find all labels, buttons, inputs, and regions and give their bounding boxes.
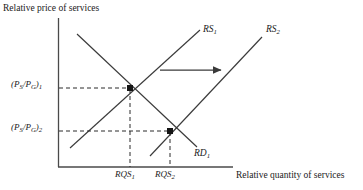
y-tick-1-mid: /P — [23, 79, 31, 89]
y-axis-title: Relative price of services — [3, 3, 99, 13]
x-tick-1-base: RQS — [115, 169, 132, 179]
rd1-base: RD — [194, 148, 207, 158]
rs1-curve — [70, 30, 200, 148]
x-tick-label-quantity-1: RQS1 — [115, 170, 135, 180]
rs2-curve — [150, 37, 262, 156]
y-tick-label-price-2: (PS/PG)2 — [11, 123, 42, 133]
curve-label-rs2: RS2 — [266, 24, 280, 34]
y-tick-2-prefix: (P — [11, 122, 20, 132]
y-tick-1-sub-s: S — [20, 83, 23, 90]
x-tick-label-quantity-2: RQS2 — [155, 170, 175, 180]
rd1-curve — [77, 34, 197, 147]
y-tick-label-price-1: (PS/PG)1 — [11, 80, 42, 90]
y-tick-2-mid: /P — [23, 122, 31, 132]
y-tick-1-sub-g: G — [31, 83, 36, 90]
x-axis-title: Relative quantity of services — [236, 170, 344, 180]
x-tick-2-base: RQS — [155, 169, 172, 179]
equilibrium-point-2 — [167, 128, 173, 134]
x-tick-1-index: 1 — [132, 173, 135, 180]
rs2-base: RS — [266, 24, 277, 34]
rs2-index: 2 — [277, 28, 280, 35]
equilibrium-point-1 — [127, 85, 133, 91]
y-tick-1-prefix: (P — [11, 79, 20, 89]
figure-canvas: Relative price of services Relative quan… — [0, 0, 363, 190]
diagram-svg — [0, 0, 363, 190]
curve-label-rd1: RD1 — [194, 148, 210, 158]
y-tick-1-index: 1 — [39, 83, 42, 90]
y-tick-2-sub-s: S — [20, 126, 23, 133]
rs1-base: RS — [203, 24, 214, 34]
y-tick-2-sub-g: G — [31, 126, 36, 133]
x-tick-2-index: 2 — [172, 173, 175, 180]
y-tick-2-index: 2 — [39, 126, 42, 133]
rd1-index: 1 — [207, 152, 210, 159]
curve-label-rs1: RS1 — [203, 24, 217, 34]
rs1-index: 1 — [214, 28, 217, 35]
